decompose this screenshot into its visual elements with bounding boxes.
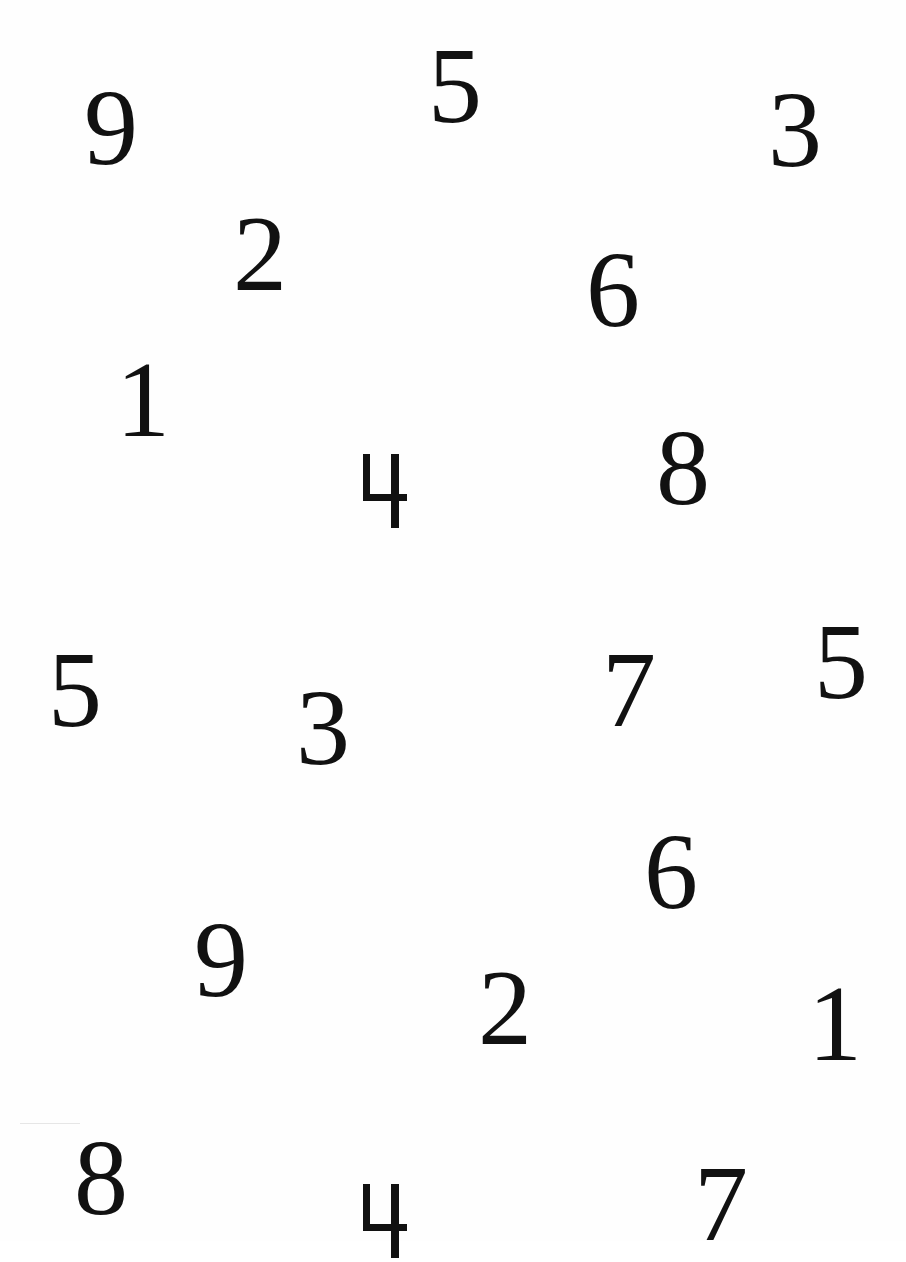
digit-8[interactable]: 8 [656,414,710,522]
digit-9[interactable]: 9 [84,74,138,182]
digit-5[interactable]: 5 [48,636,102,744]
digit-5[interactable]: 5 [428,32,482,140]
scan-artifact-line [20,1123,80,1124]
digit-6[interactable]: 6 [644,818,698,926]
digit-4[interactable] [363,1184,407,1258]
digit-2[interactable]: 2 [233,200,287,308]
open-four-glyph-icon [363,1184,407,1258]
digit-7[interactable]: 7 [694,1150,748,1258]
digit-3[interactable]: 3 [296,674,350,782]
digit-5[interactable]: 5 [814,608,868,716]
digit-9[interactable]: 9 [194,906,248,1014]
digit-4[interactable] [363,454,407,528]
digit-8[interactable]: 8 [74,1124,128,1232]
digit-2[interactable]: 2 [478,954,532,1062]
digit-3[interactable]: 3 [768,76,822,184]
digit-6[interactable]: 6 [586,236,640,344]
digit-1[interactable]: 1 [116,346,170,454]
digit-7[interactable]: 7 [602,636,656,744]
open-four-glyph-icon [363,454,407,528]
digit-1[interactable]: 1 [808,970,862,1078]
